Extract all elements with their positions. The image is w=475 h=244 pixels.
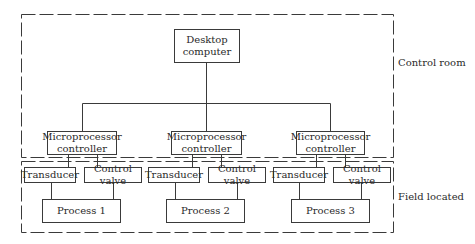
transducer-box-2: Transducer [148,167,200,183]
desktop-line2: computer [183,46,232,58]
controller-label: controller [57,143,107,155]
control-room-label: Control room [398,57,466,68]
controller-label: controller [182,143,232,155]
process-box-3: Process 3 [291,199,370,223]
control-valve-box-1: Control valve [84,167,142,183]
process-box-1: Process 1 [42,199,121,223]
controller-label: Microprocessor [167,131,247,143]
desktop-line1: Desktop [186,34,228,46]
transducer-box-1: Transducer [24,167,76,183]
controller-label: Microprocessor [291,131,371,143]
control-valve-box-2: Control valve [208,167,266,183]
controller-label: Microprocessor [42,131,122,143]
control-valve-box-3: Control valve [333,167,391,183]
controller-label: controller [306,143,356,155]
process-box-2: Process 2 [166,199,245,223]
field-located-label: Field located [398,191,464,202]
desktop-computer-box: Desktop computer [174,29,240,63]
transducer-box-3: Transducer [273,167,325,183]
controller-box-1: Microprocessor controller [47,131,117,155]
controller-box-2: Microprocessor controller [171,131,242,155]
controller-box-3: Microprocessor controller [296,131,365,155]
